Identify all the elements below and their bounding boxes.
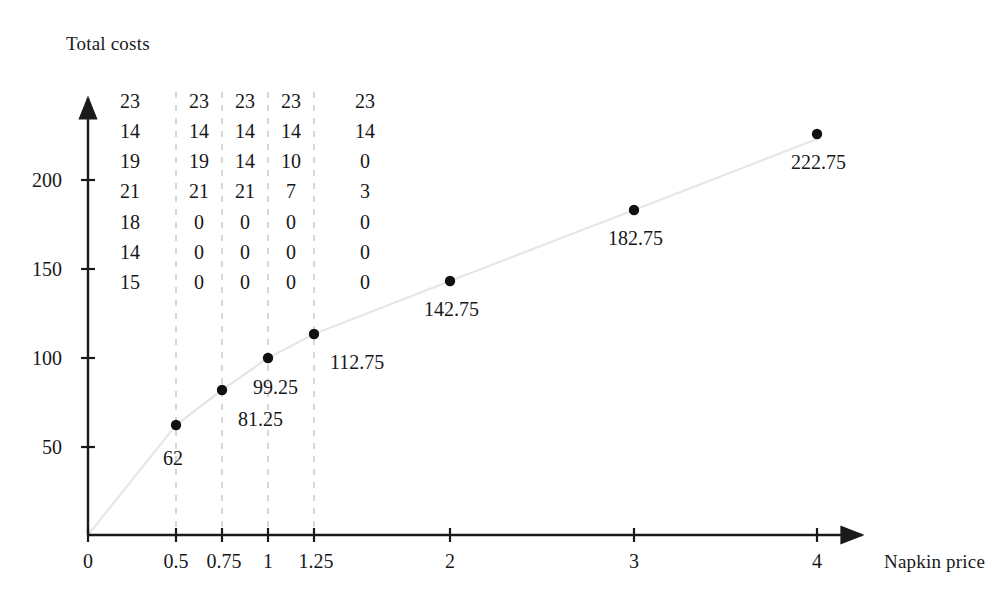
- point-label-222-75: 222.75: [791, 152, 846, 172]
- matrix-cell: 3: [360, 181, 370, 201]
- matrix-cell: 0: [360, 151, 370, 171]
- matrix-cell: 21: [120, 181, 140, 201]
- data-point: [171, 420, 181, 430]
- matrix-cell: 23: [235, 91, 255, 111]
- data-point: [629, 205, 639, 215]
- matrix-cell: 14: [120, 242, 140, 262]
- x-tick-label-1: 1: [263, 551, 273, 571]
- x-tick-label-3: 3: [629, 551, 639, 571]
- matrix-cell: 10: [281, 151, 301, 171]
- matrix-cell: 0: [360, 242, 370, 262]
- matrix-cell: 14: [235, 151, 255, 171]
- data-point: [445, 276, 455, 286]
- point-label-81-25: 81.25: [238, 409, 283, 429]
- x-tick-label-1-25: 1.25: [299, 551, 334, 571]
- matrix-cell: 23: [189, 91, 209, 111]
- matrix-cell: 0: [240, 212, 250, 232]
- data-point: [309, 329, 319, 339]
- data-point: [217, 385, 227, 395]
- matrix-cell: 14: [355, 121, 375, 141]
- matrix-cell: 7: [286, 181, 296, 201]
- matrix-cell: 21: [235, 181, 255, 201]
- matrix-cell: 23: [281, 91, 301, 111]
- matrix-cell: 0: [194, 242, 204, 262]
- matrix-cell: 0: [240, 272, 250, 292]
- point-label-99-25: 99.25: [253, 377, 298, 397]
- data-point: [263, 353, 273, 363]
- data-point: [812, 129, 822, 139]
- chart-canvas: Total costs Napkin price 200 150 100 50 …: [0, 0, 1006, 597]
- y-axis-title: Total costs: [66, 30, 156, 58]
- matrix-cell: 0: [360, 272, 370, 292]
- matrix-cell: 18: [120, 212, 140, 232]
- y-tick-label-50: 50: [42, 437, 62, 457]
- matrix-cell: 0: [286, 212, 296, 232]
- y-tick-label-200: 200: [32, 170, 62, 190]
- point-label-142-75: 142.75: [424, 299, 479, 319]
- y-tick-label-100: 100: [32, 348, 62, 368]
- x-axis-title: Napkin price: [884, 552, 985, 571]
- matrix-cell: 0: [286, 272, 296, 292]
- matrix-cell: 19: [120, 151, 140, 171]
- x-tick-label-0-5: 0.5: [164, 551, 189, 571]
- matrix-cell: 0: [240, 242, 250, 262]
- point-label-182-75: 182.75: [608, 228, 663, 248]
- matrix-cell: 0: [286, 242, 296, 262]
- matrix-cell: 19: [189, 151, 209, 171]
- x-tick-label-4: 4: [812, 551, 822, 571]
- matrix-cell: 21: [189, 181, 209, 201]
- matrix-cell: 0: [194, 212, 204, 232]
- matrix-cell: 0: [360, 212, 370, 232]
- matrix-cell: 15: [120, 272, 140, 292]
- x-tick-label-2: 2: [445, 551, 455, 571]
- matrix-cell: 23: [120, 91, 140, 111]
- matrix-cell: 14: [281, 121, 301, 141]
- point-label-62: 62: [163, 448, 183, 468]
- matrix-cell: 0: [194, 272, 204, 292]
- point-label-112-75: 112.75: [330, 352, 384, 372]
- x-tick-label-0: 0: [83, 551, 93, 571]
- chart-plot-area: [0, 0, 1006, 597]
- matrix-cell: 14: [189, 121, 209, 141]
- matrix-cell: 14: [120, 121, 140, 141]
- x-tick-label-0-75: 0.75: [207, 551, 242, 571]
- matrix-cell: 14: [235, 121, 255, 141]
- matrix-cell: 23: [355, 91, 375, 111]
- y-tick-label-150: 150: [32, 259, 62, 279]
